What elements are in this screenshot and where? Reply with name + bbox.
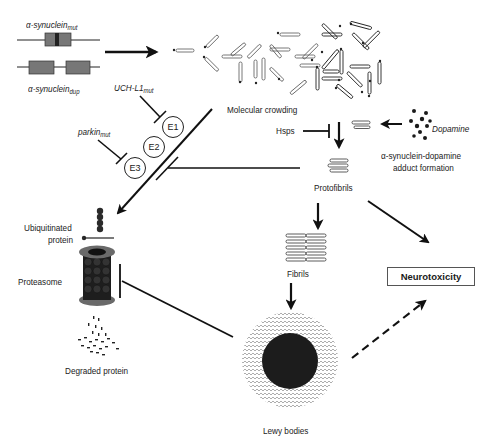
proteasome-glyph	[79, 246, 115, 307]
monomer-rods	[352, 121, 370, 129]
label-degraded-protein: Degraded protein	[65, 365, 128, 376]
label-adduct-line2: adduct formation	[393, 162, 454, 173]
arrow-protofibrils-to-neurotoxicity	[368, 201, 428, 242]
alpha-synuclein-mut-gene	[17, 33, 100, 46]
label-protofibrils: Protofibrils	[314, 182, 353, 193]
label-parkin-mut: parkinmut	[78, 126, 110, 140]
ubiquitin-chain	[82, 208, 103, 240]
enzyme-e1: E1	[162, 116, 184, 138]
gene-label-mut: α-synucleinmut	[26, 19, 77, 33]
pathway-diagram	[0, 0, 485, 443]
lewy-body-glyph	[242, 312, 338, 408]
inhibition-lewy-to-proteasome	[120, 264, 233, 337]
label-molecular-crowding: Molecular crowding	[227, 104, 297, 115]
neurotoxicity-box: Neurotoxicity	[387, 267, 475, 286]
gene-label-dup: α-synucleindup	[28, 83, 79, 97]
fibrils-glyph	[286, 234, 326, 261]
inhibition-uchl1-to-e1	[140, 96, 166, 123]
molecular-crowding-rods	[173, 21, 381, 99]
alpha-synuclein-dup-gene	[17, 61, 100, 74]
label-uchl1-mut: UCH-L1mut	[114, 82, 154, 96]
inhibition-protofibrils-to-ubiquitination	[156, 157, 300, 180]
enzyme-e3: E3	[124, 157, 146, 179]
enzyme-e2: E2	[143, 136, 165, 158]
label-dopamine: Dopamine	[432, 123, 469, 134]
inhibition-hsps	[303, 124, 329, 138]
protofibrils-glyph	[328, 159, 348, 172]
inhibition-parkin-to-e3	[98, 140, 127, 164]
label-hsps: Hsps	[276, 125, 295, 136]
dopamine-molecules	[409, 109, 432, 140]
dashed-arrow-lewy-to-neurotoxicity	[352, 301, 425, 358]
label-fibrils: Fibrils	[287, 268, 309, 279]
degraded-protein-fragments	[78, 316, 119, 355]
label-adduct-line1: α-synuclein-dopamine	[381, 150, 461, 161]
label-ubiquitinated-line1: Ubiquitinated	[24, 222, 72, 233]
label-lewy-bodies: Lewy bodies	[263, 425, 308, 436]
label-proteasome: Proteasome	[18, 276, 62, 287]
label-ubiquitinated-line2: protein	[48, 234, 73, 245]
